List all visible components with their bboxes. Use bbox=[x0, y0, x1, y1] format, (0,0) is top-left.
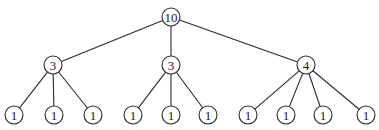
node-label: 1 bbox=[283, 108, 290, 123]
edge-m1-l2 bbox=[53, 74, 54, 106]
node-label: 1 bbox=[130, 108, 137, 123]
node-label: 1 bbox=[320, 108, 327, 123]
node-label: 3 bbox=[50, 58, 57, 73]
tree-node-l1: 1 bbox=[5, 106, 23, 124]
tree-node-root: 10 bbox=[162, 8, 180, 26]
node-label: 10 bbox=[165, 10, 178, 25]
tree-node-m2: 3 bbox=[162, 56, 180, 74]
tree-node-m3: 4 bbox=[297, 56, 315, 74]
tree-nodes: 103341111111111 bbox=[5, 8, 375, 124]
node-label: 1 bbox=[363, 108, 370, 123]
edge-m3-l7 bbox=[255, 71, 299, 109]
node-label: 1 bbox=[11, 108, 18, 123]
edge-m1-l3 bbox=[59, 72, 88, 108]
tree-node-l4: 1 bbox=[124, 106, 142, 124]
node-label: 4 bbox=[303, 58, 310, 73]
edge-m1-l1 bbox=[20, 72, 48, 108]
tree-node-l3: 1 bbox=[84, 106, 102, 124]
node-label: 3 bbox=[168, 58, 175, 73]
edge-m3-l9 bbox=[309, 74, 320, 107]
node-label: 1 bbox=[90, 108, 97, 123]
node-label: 1 bbox=[245, 108, 252, 123]
node-label: 1 bbox=[168, 108, 175, 123]
tree-node-l2: 1 bbox=[45, 106, 63, 124]
tree-diagram: 103341111111111 bbox=[0, 0, 379, 130]
edge-m3-l10 bbox=[313, 71, 359, 109]
tree-node-l7: 1 bbox=[239, 106, 257, 124]
edge-root-m1 bbox=[61, 20, 162, 61]
tree-node-l5: 1 bbox=[162, 106, 180, 124]
edge-m2-l4 bbox=[138, 72, 165, 108]
edge-root-m3 bbox=[179, 20, 297, 62]
tree-node-l6: 1 bbox=[199, 106, 217, 124]
edge-m2-l6 bbox=[176, 72, 202, 108]
node-label: 1 bbox=[51, 108, 58, 123]
node-label: 1 bbox=[205, 108, 212, 123]
tree-node-l9: 1 bbox=[314, 106, 332, 124]
tree-node-l8: 1 bbox=[277, 106, 295, 124]
tree-node-m1: 3 bbox=[44, 56, 62, 74]
tree-node-l10: 1 bbox=[357, 106, 375, 124]
